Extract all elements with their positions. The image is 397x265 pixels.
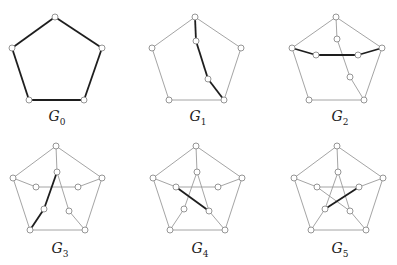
edge [196, 146, 197, 172]
edge [13, 146, 56, 178]
vertex-o4 [289, 45, 295, 51]
label-subscript: 4 [203, 249, 209, 259]
edge [292, 48, 309, 100]
graph-panel-g4 [150, 143, 245, 233]
label-subscript: 2 [343, 117, 349, 127]
panel-label-g3: G3 [52, 240, 69, 259]
edge [350, 77, 364, 100]
label-subscript: 3 [63, 249, 69, 259]
label-name: G [192, 240, 203, 256]
edge [69, 211, 85, 230]
edge [56, 146, 57, 172]
vertex-i0 [193, 38, 199, 44]
vertex-o1 [238, 45, 244, 51]
vertex-o2 [82, 227, 88, 233]
edge [209, 211, 225, 230]
graph-panel-g1 [149, 14, 244, 103]
vertex-i2 [206, 208, 212, 214]
vertex-o4 [149, 45, 155, 51]
edge [338, 172, 350, 211]
graph-panel-g0 [9, 14, 105, 103]
vertex-o0 [333, 14, 339, 20]
edge [85, 178, 102, 230]
highlighted-edge [195, 17, 196, 41]
panel-label-g5: G5 [332, 240, 349, 259]
vertex-i2 [205, 76, 211, 82]
edge [78, 178, 102, 187]
vertex-o2 [361, 97, 367, 103]
vertex-i4 [313, 52, 319, 58]
label-subscript: 5 [343, 249, 349, 259]
edge [364, 48, 382, 100]
graph-panel-g5 [291, 143, 386, 233]
highlighted-edge [12, 48, 29, 100]
vertex-i2 [66, 208, 72, 214]
vertex-o1 [99, 175, 105, 181]
vertex-o3 [166, 97, 172, 103]
edge [57, 172, 69, 211]
highlighted-edge [55, 17, 102, 48]
vertex-o0 [53, 143, 59, 149]
vertex-i0 [335, 169, 341, 175]
label-subscript: 0 [60, 117, 66, 127]
highlighted-edge [30, 209, 44, 230]
edge [152, 48, 169, 100]
vertex-i1 [215, 184, 221, 190]
vertex-o3 [306, 97, 312, 103]
label-name: G [190, 108, 201, 124]
edge [153, 146, 196, 178]
edge [225, 178, 242, 230]
vertex-o4 [9, 45, 15, 51]
highlighted-edge [44, 172, 57, 209]
edge [325, 172, 338, 209]
vertex-i0 [194, 169, 200, 175]
vertex-o1 [99, 45, 105, 51]
edge [196, 146, 242, 178]
edge [153, 178, 176, 187]
vertex-o3 [27, 227, 33, 233]
panel-label-g4: G4 [192, 240, 209, 259]
edge [350, 211, 366, 230]
edge [13, 178, 36, 187]
vertex-i2 [347, 208, 353, 214]
edge [366, 178, 383, 230]
edge [197, 172, 209, 211]
vertex-o4 [291, 175, 297, 181]
highlighted-edge [292, 48, 316, 55]
graph-figure [0, 0, 397, 265]
highlighted-edge [12, 17, 55, 48]
edge [292, 17, 336, 48]
vertex-o0 [193, 143, 199, 149]
edge [152, 17, 195, 48]
vertex-o4 [10, 175, 16, 181]
edge [218, 178, 242, 187]
edge [337, 39, 350, 77]
vertex-o2 [222, 227, 228, 233]
vertex-i4 [314, 184, 320, 190]
edge [170, 209, 184, 230]
vertex-i4 [173, 184, 179, 190]
panel-label-g2: G2 [332, 108, 349, 127]
vertex-i1 [355, 52, 361, 58]
highlighted-edge [208, 79, 224, 100]
edge [294, 178, 317, 187]
edge [337, 146, 383, 178]
edge [294, 146, 337, 178]
vertex-o2 [81, 97, 87, 103]
edge [153, 178, 170, 230]
label-subscript: 1 [201, 117, 207, 127]
edge [311, 209, 325, 230]
label-name: G [332, 108, 343, 124]
label-name: G [52, 240, 63, 256]
vertex-i0 [334, 36, 340, 42]
vertex-o1 [380, 175, 386, 181]
vertex-i3 [41, 206, 47, 212]
vertex-o3 [26, 97, 32, 103]
edge [224, 48, 241, 100]
vertex-i0 [54, 169, 60, 175]
edge [294, 178, 311, 230]
vertex-i3 [322, 206, 328, 212]
vertex-o0 [334, 143, 340, 149]
vertex-o0 [52, 14, 58, 20]
highlighted-edge [84, 48, 102, 100]
